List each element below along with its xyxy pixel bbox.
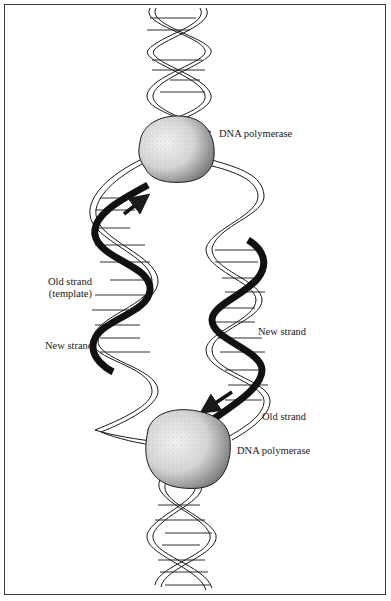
left-synthesis-arrow — [124, 200, 142, 214]
label-new-strand-right: New strand — [258, 326, 306, 337]
dna-polymerase-top — [139, 116, 214, 182]
dna-polymerase-bottom — [146, 410, 231, 489]
label-dna-polymerase-bottom: DNA polymerase — [237, 445, 310, 456]
label-old-strand-right: Old strand — [262, 411, 306, 422]
label-dna-polymerase-top: DNA polymerase — [219, 128, 292, 139]
label-old-strand-template-line2: (template) — [40, 288, 92, 299]
label-new-strand-left: New strand — [45, 340, 93, 351]
left-daughter-helix — [90, 160, 160, 446]
right-new-strand — [205, 240, 264, 425]
top-parental-helix — [147, 8, 211, 132]
dna-replication-diagram — [0, 0, 391, 601]
label-old-strand-template-line1: Old strand — [40, 276, 92, 287]
bottom-helix — [147, 480, 216, 590]
left-new-strand — [93, 185, 150, 372]
